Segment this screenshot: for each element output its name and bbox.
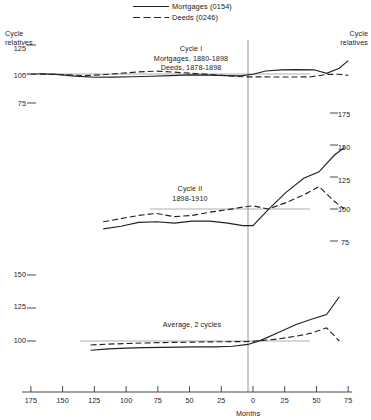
x-tick-label: 125 [81, 396, 107, 405]
x-tick-label: 50 [177, 396, 203, 405]
average-annotation: Average, 2 cycles [140, 320, 244, 330]
series-line-deeds-average [91, 328, 340, 345]
x-tick-label: 75 [335, 396, 361, 405]
x-axis [22, 386, 352, 392]
y-tick-label-cycle2-75: 75 [341, 238, 349, 247]
y-tick-label-cycle2-125: 125 [338, 176, 350, 185]
legend-swatches [133, 7, 169, 18]
cycle-2-annotation: Cycle II 1898-1910 [140, 184, 240, 203]
x-axis-tick-marks [31, 386, 348, 392]
y-tick-label-cycle2-100: 100 [338, 205, 350, 214]
x-tick-label: 175 [18, 396, 44, 405]
reference-lines [22, 74, 310, 341]
legend-label-deeds: Deeds (0246) [172, 13, 218, 22]
x-axis-title: Months [226, 409, 270, 418]
y-tick-label-cycle2-150: 150 [338, 143, 350, 152]
y-tick-label-average-125: 125 [2, 302, 26, 311]
x-tick-label: 50 [304, 396, 330, 405]
y-tick-label-cycle1-100: 100 [2, 71, 26, 80]
y-tick-label-average-100: 100 [2, 336, 26, 345]
legend-label-mortgages: Mortgages (0154) [172, 2, 232, 11]
x-tick-label: 0 [240, 396, 266, 405]
y-tick-label-average-150: 150 [2, 270, 26, 279]
x-tick-label: 75 [145, 396, 171, 405]
y-tick-label-cycle1-125: 125 [2, 44, 26, 53]
chart-figure: Mortgages (0154) Deeds (0246) Cycle rela… [0, 0, 371, 420]
right-axis-title: Cycle relatives [306, 29, 368, 47]
cycle-1-annotation: Cycle I Mortgages, 1880-1898 Deeds, 1878… [128, 44, 254, 73]
x-tick-label: 100 [113, 396, 139, 405]
x-tick-label: 25 [208, 396, 234, 405]
y-tick-label-cycle1-75: 75 [2, 99, 26, 108]
x-tick-label: 25 [272, 396, 298, 405]
y-tick-label-cycle2-175: 175 [338, 110, 350, 119]
x-tick-label: 150 [50, 396, 76, 405]
